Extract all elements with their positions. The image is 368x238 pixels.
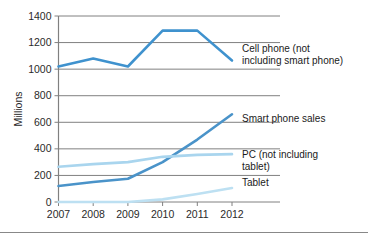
series-label: Cell phone (notincluding smart phone) xyxy=(242,43,343,66)
series-label-text: Tablet xyxy=(242,177,269,188)
series-line xyxy=(59,188,233,202)
series-labels-group: Cell phone (notincluding smart phone)Sma… xyxy=(242,43,343,188)
series-label-text: tablet) xyxy=(242,161,270,172)
x-tick-label: 2008 xyxy=(82,208,106,220)
y-tick-label: 1400 xyxy=(28,10,52,22)
y-tick-label: 0 xyxy=(46,196,52,208)
series-line xyxy=(59,154,233,167)
y-tick-label: 800 xyxy=(34,89,52,101)
y-tick-label: 400 xyxy=(34,142,52,154)
x-tick-label: 2009 xyxy=(116,208,140,220)
series-label-text: including smart phone) xyxy=(242,55,343,66)
y-tick-label: 200 xyxy=(34,169,52,181)
x-tick-label: 2012 xyxy=(220,208,244,220)
data-series-group xyxy=(59,31,233,202)
series-label: Tablet xyxy=(242,177,269,188)
series-label: PC (not includingtablet) xyxy=(242,149,318,172)
x-tick-label: 2010 xyxy=(151,208,175,220)
chart-container: 0200400600800100012001400 20072008200920… xyxy=(0,0,368,238)
line-chart: 0200400600800100012001400 20072008200920… xyxy=(0,0,368,238)
y-tick-label: 1200 xyxy=(28,36,52,48)
series-label-text: PC (not including xyxy=(242,149,318,160)
y-axis xyxy=(55,16,59,202)
y-axis-tick-labels: 0200400600800100012001400 xyxy=(28,10,52,208)
x-tick-label: 2011 xyxy=(186,208,209,220)
series-label: Smart phone sales xyxy=(242,113,325,124)
series-label-text: Smart phone sales xyxy=(242,113,325,124)
y-axis-title-text: Millions xyxy=(12,91,24,126)
y-axis-title: Millions xyxy=(12,91,24,126)
x-axis-tick-labels: 200720082009201020112012 xyxy=(47,208,244,220)
y-tick-label: 600 xyxy=(34,116,52,128)
series-label-text: Cell phone (not xyxy=(242,43,310,54)
x-tick-label: 2007 xyxy=(47,208,71,220)
y-tick-label: 1000 xyxy=(28,63,52,75)
series-line xyxy=(59,31,233,67)
